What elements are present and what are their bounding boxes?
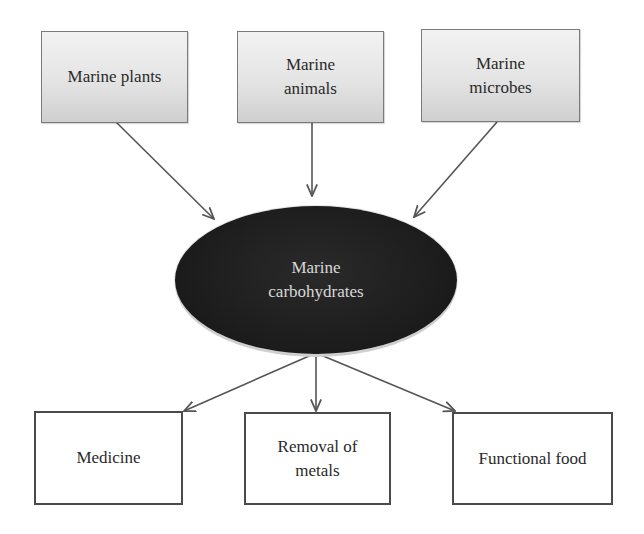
arrow-microbes-to-carbohydrates [414,122,497,217]
node-functional-food: Functional food [452,412,613,505]
node-label: Removal of metals [278,435,358,483]
diagram-canvas: Marine plants Marine animals Marine micr… [0,0,644,534]
node-marine-microbes: Marine microbes [421,29,580,122]
node-label: Marine plants [68,65,162,89]
node-label: Marine animals [284,53,337,101]
node-marine-carbohydrates: Marine carbohydrates [175,206,457,354]
node-label: Marine microbes [469,52,531,100]
node-marine-animals: Marine animals [237,31,384,123]
node-removal-of-metals: Removal of metals [244,412,391,505]
arrow-plants-to-carbohydrates [116,122,214,219]
arrow-carbohydrates-to-medicine [184,353,316,411]
arrow-carbohydrates-to-functional-food [316,353,455,411]
node-label: Marine carbohydrates [268,256,363,304]
node-marine-plants: Marine plants [41,31,188,123]
node-medicine: Medicine [34,411,183,505]
node-label: Functional food [478,447,586,471]
node-label: Medicine [76,446,140,470]
